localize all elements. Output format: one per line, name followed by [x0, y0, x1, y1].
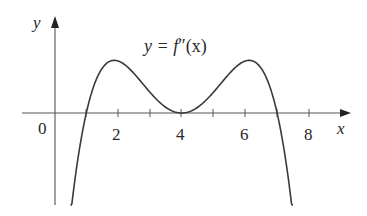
tick-label-6: 6 [240, 125, 249, 144]
curve-label: y = f″(x) [142, 36, 207, 57]
tick-label-4: 4 [176, 125, 185, 144]
curve-label-y: y = [142, 36, 173, 56]
origin-label: 0 [38, 119, 47, 138]
tick-label-2: 2 [112, 125, 121, 144]
tick-label-8: 8 [304, 125, 313, 144]
x-axis-label: x [336, 119, 345, 138]
graph-canvas: y x 0 2 4 6 8 y = f″(x) [0, 0, 367, 216]
y-axis-label: y [31, 13, 41, 32]
x-axis-arrow-icon [340, 109, 351, 117]
y-axis-arrow-icon [51, 16, 59, 28]
curve-label-arg: (x) [186, 36, 207, 57]
curve-label-primes: ″ [178, 36, 186, 56]
